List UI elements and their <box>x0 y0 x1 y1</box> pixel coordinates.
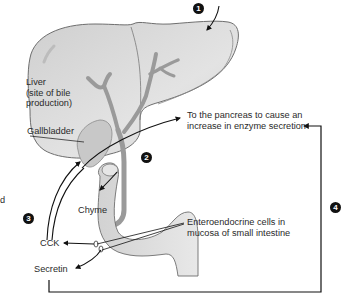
pancreas-label-line1: To the pancreas to cause an <box>187 110 302 121</box>
step-marker-4: 4 <box>330 202 341 213</box>
enteroendocrine-cell-2 <box>99 246 103 252</box>
step-marker-3: 3 <box>23 213 34 224</box>
liver-label-sub1: (site of bile <box>26 88 70 99</box>
step-marker-2: 2 <box>141 152 152 163</box>
step-marker-1: 1 <box>193 3 204 14</box>
chyme-label: Chyme <box>78 205 107 216</box>
liver-label-sub2: production) <box>26 98 72 109</box>
pancreas-label-line2: increase in enzyme secretion <box>187 121 306 132</box>
cutoff-text-fragment: d <box>0 195 5 206</box>
enteroendocrine-label-line2: mucosa of small intestine <box>187 228 290 239</box>
cck-label: CCK <box>40 238 59 249</box>
enteroendocrine-label-line1: Enteroendocrine cells in <box>187 217 285 228</box>
liver-label: Liver <box>26 77 46 88</box>
diagram-artwork <box>0 0 348 306</box>
gallbladder-label: Gallbladder <box>27 126 74 137</box>
bile-regulation-diagram: Liver (site of bile production) Gallblad… <box>0 0 348 306</box>
secretin-label: Secretin <box>34 264 68 275</box>
